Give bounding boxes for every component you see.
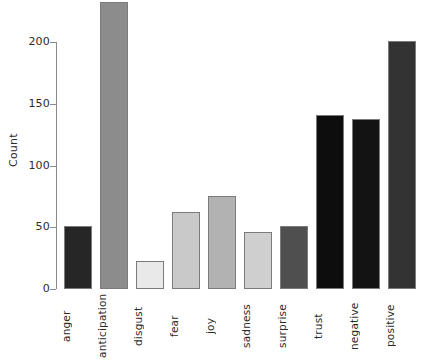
bar-anticipation [100,2,129,289]
x-tick-label-fear: fear [168,292,204,360]
plot-area [60,0,420,289]
bar-trust [316,115,345,289]
y-tick-group: 0 [0,289,50,290]
bar-anger [64,226,93,289]
y-tick-mark [50,42,56,43]
y-tick-mark [50,227,56,228]
x-tick-label-surprise: surprise [276,292,312,360]
y-tick-mark [50,166,56,167]
x-tick-label-trust: trust [312,292,348,360]
x-tick-label-sadness: sadness [240,292,276,360]
bar-chart: Count 050100150200 angeranticipationdisg… [0,0,427,363]
y-tick-group: 50 [0,227,50,228]
x-tick-label-joy: joy [204,292,240,360]
bar-positive [388,41,417,289]
y-tick-mark [50,104,56,105]
bar-disgust [136,261,165,289]
y-tick-group: 150 [0,104,50,105]
x-tick-label-negative: negative [348,292,384,360]
y-tick-group: 100 [0,166,50,167]
x-axis-tick-labels: angeranticipationdisgustfearjoysadnesssu… [60,292,420,363]
bar-negative [352,119,381,289]
y-tick-group: 200 [0,42,50,43]
y-tick-label: 150 [6,97,50,110]
x-tick-label-anger: anger [60,292,96,360]
bar-sadness [244,232,273,289]
x-tick-label-anticipation: anticipation [96,292,132,360]
y-tick-label: 200 [6,35,50,48]
y-tick-label: 0 [6,282,50,295]
y-tick-mark [50,289,56,290]
y-tick-label: 100 [6,159,50,172]
x-tick-label-disgust: disgust [132,292,168,360]
y-tick-label: 50 [6,220,50,233]
y-axis-line [56,42,57,289]
bar-surprise [280,226,309,289]
bar-fear [172,212,201,289]
bar-joy [208,196,237,289]
x-tick-label-positive: positive [384,292,420,360]
